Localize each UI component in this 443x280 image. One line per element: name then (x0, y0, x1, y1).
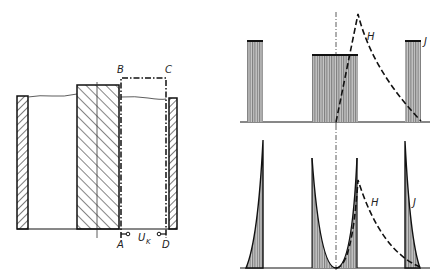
terminal-a (126, 232, 130, 236)
label-b: B (117, 64, 124, 75)
bottom-label-j: J (411, 197, 416, 208)
bottom-label-h: H (371, 197, 379, 208)
fill-level-line-right (121, 97, 166, 100)
middle-block (77, 85, 119, 229)
label-a: A (116, 239, 124, 250)
top-field-plot: H J (240, 12, 430, 125)
cross-section-diagram: B C A D U K (17, 64, 177, 250)
top-bar-left (247, 41, 263, 122)
integration-path (121, 78, 166, 238)
top-label-h: H (367, 31, 375, 42)
top-label-j: J (422, 36, 427, 47)
right-wall (169, 98, 177, 229)
left-wall (17, 96, 28, 229)
label-d: D (162, 239, 170, 250)
label-voltage: U (138, 232, 146, 243)
top-bar-middle (312, 55, 358, 122)
terminal-d (157, 232, 161, 236)
bottom-spike-middle (312, 158, 357, 268)
top-bar-right (405, 41, 421, 122)
fill-level-line-left (28, 94, 77, 97)
bottom-field-plot: H J (240, 125, 430, 270)
bottom-spike-left (246, 140, 263, 268)
label-voltage-subscript: K (146, 238, 152, 246)
label-c: C (165, 64, 172, 75)
figure-canvas: B C A D U K H J H J (0, 0, 443, 280)
